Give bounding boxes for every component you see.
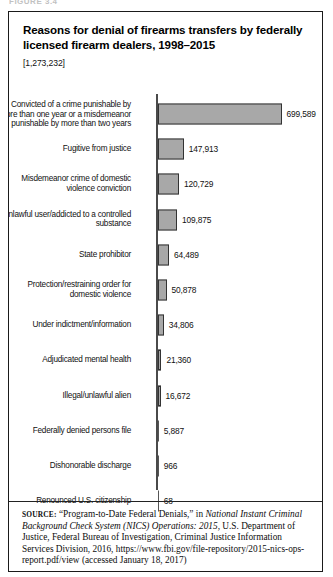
total-count-label: [1,273,232]: [23, 58, 65, 68]
bar-category-label: Dishonorable discharge: [8, 461, 131, 471]
bar-value-label: 21,360: [166, 355, 191, 365]
bar: [158, 456, 159, 477]
bar: [158, 315, 164, 336]
bar: [158, 385, 161, 406]
source-note: SOURCE: “Program-to-Date Federal Denials…: [22, 509, 312, 567]
bar-value-label: 64,489: [174, 250, 199, 260]
bar-category-label: Illegal/unlawful alien: [8, 391, 131, 401]
bar-category-label: Adjudicated mental health: [8, 356, 131, 366]
bar-value-label: 16,672: [166, 391, 191, 401]
bar-category-label: Federally denied persons file: [8, 426, 131, 436]
bar: [158, 244, 169, 265]
bar: [158, 209, 177, 230]
source-text-1: “Program-to-Date Federal Denials,” in: [57, 509, 206, 519]
bar-category-label: Unlawful user/addicted to a controlled s…: [8, 210, 131, 229]
bar: [158, 174, 179, 195]
bar-value-label: 120,729: [184, 179, 213, 189]
bar-category-label: Convicted of a crime punishable by more …: [8, 100, 131, 129]
bar: [158, 139, 184, 160]
bar-category-label: Protection/restraining order for domesti…: [8, 280, 131, 299]
bar-value-label: 147,913: [189, 144, 218, 154]
figure-panel: Reasons for denial of firearms transfers…: [8, 11, 323, 572]
bar-value-label: 966: [164, 461, 178, 471]
page-title: Reasons for denial of firearms transfers…: [23, 22, 311, 52]
bar: [158, 420, 159, 441]
bar: [158, 104, 282, 125]
bar-value-label: 109,875: [182, 215, 211, 225]
bar-category-label: Fugitive from justice: [8, 144, 131, 154]
source-divider: [9, 501, 322, 502]
bar: [158, 280, 167, 301]
bar-value-label: 699,589: [287, 109, 316, 119]
bar: [158, 350, 162, 371]
bar-category-label: Under indictment/information: [8, 320, 131, 330]
bar-value-label: 34,806: [169, 320, 194, 330]
bar-category-label: State prohibitor: [8, 250, 131, 260]
source-label: SOURCE:: [22, 510, 57, 519]
bar-chart: Convicted of a crime punishable by more …: [9, 90, 322, 490]
bar-value-label: 5,887: [164, 426, 184, 436]
bar-category-label: Misdemeanor crime of domestic violence c…: [8, 175, 131, 194]
bar-value-label: 50,878: [172, 285, 197, 295]
figure-caption-partial: FIGURE 3.4: [9, 0, 58, 4]
